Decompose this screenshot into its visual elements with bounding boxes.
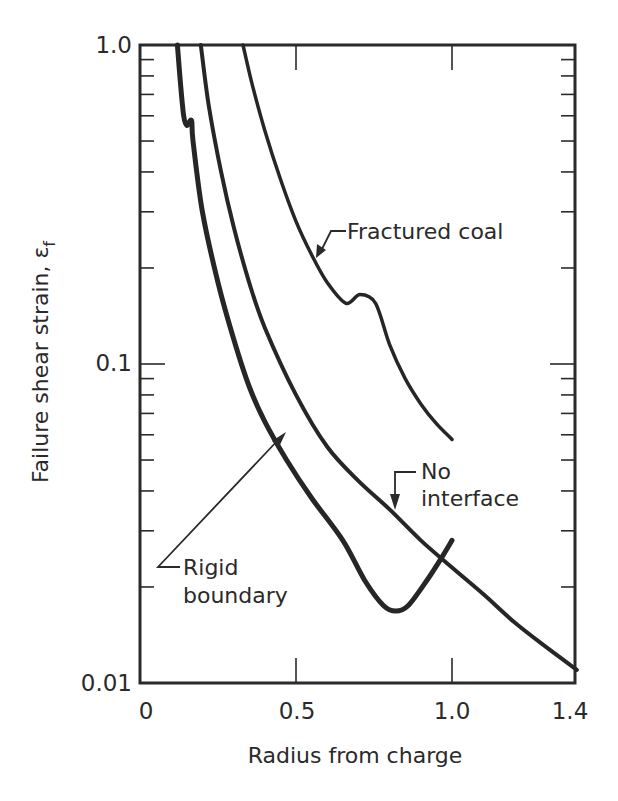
leader-line xyxy=(158,438,280,567)
annotation-fractured-coal: Fractured coal xyxy=(316,219,503,258)
annotation-no-interface: No interface xyxy=(390,459,519,511)
label-no-interface-line2: interface xyxy=(421,486,519,511)
label-rigid-boundary-line2: boundary xyxy=(183,583,288,608)
curve-rigid-boundary xyxy=(177,45,452,611)
label-no-interface-line1: No xyxy=(421,459,451,484)
chart: 1.0 0.1 0.01 0 0.5 1.0 1.4 Radius from c… xyxy=(0,0,618,801)
x-tick-label-0: 0 xyxy=(139,698,154,724)
x-tick-label-1.4: 1.4 xyxy=(552,698,589,724)
x-tick-label-1.0: 1.0 xyxy=(434,698,471,724)
y-tick-label-1: 1.0 xyxy=(95,32,132,58)
y-tick-label-0.01: 0.01 xyxy=(81,670,132,696)
y-axis-title-text: Failure shear strain, ε xyxy=(28,247,53,483)
arrowhead-icon xyxy=(390,494,400,510)
curve-no-interface xyxy=(201,45,577,670)
arrowhead-icon xyxy=(316,244,326,258)
y-axis-title: Failure shear strain, εf xyxy=(28,241,59,483)
y-axis-title-group: Failure shear strain, εf xyxy=(28,241,59,483)
label-rigid-boundary-line1: Rigid xyxy=(183,555,238,580)
y-axis-title-subscript: f xyxy=(40,241,59,247)
y-tick-label-0.1: 0.1 xyxy=(95,350,132,376)
x-axis-title: Radius from charge xyxy=(248,743,463,768)
annotation-rigid-boundary: Rigid boundary xyxy=(158,432,288,608)
label-fractured-coal: Fractured coal xyxy=(347,219,503,244)
x-tick-label-0.5: 0.5 xyxy=(279,698,316,724)
